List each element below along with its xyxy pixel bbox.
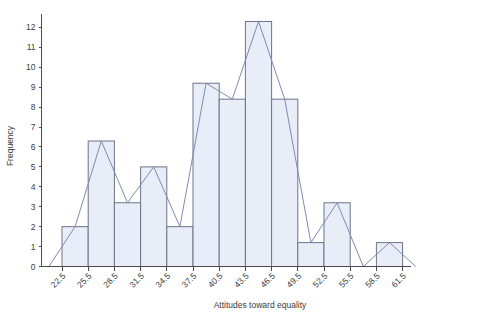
histogram-bar [167, 227, 193, 267]
histogram-bar [141, 167, 167, 267]
histogram-bar [219, 99, 245, 266]
x-tick-label: 43.5 [232, 271, 251, 290]
y-tick-label: 3 [31, 202, 36, 212]
x-tick-label: 25.5 [75, 271, 94, 290]
histogram-bar [298, 243, 324, 267]
y-tick-label: 0 [31, 262, 36, 272]
x-tick-label: 28.5 [101, 271, 120, 290]
x-axis-title: Attitudes toward equality [214, 300, 307, 310]
histogram-bar [114, 203, 140, 267]
y-tick-label: 1 [31, 242, 36, 252]
y-tick-label: 7 [31, 122, 36, 132]
y-tick-label: 5 [31, 162, 36, 172]
x-tick-label: 55.5 [337, 271, 356, 290]
histogram-bar [62, 227, 88, 267]
histogram-bar [88, 141, 114, 267]
y-tick-label: 11 [27, 42, 36, 52]
histogram-bar [324, 203, 350, 267]
y-tick-label: 8 [31, 102, 36, 112]
histogram-bar [245, 21, 271, 266]
histogram-bar [272, 99, 298, 266]
x-tick-label: 61.5 [389, 271, 408, 290]
x-tick-label: 37.5 [180, 271, 199, 290]
y-tick-label: 6 [31, 142, 36, 152]
chart-canvas: 012345678910111222.525.528.531.534.537.5… [0, 0, 489, 317]
histogram-chart: 012345678910111222.525.528.531.534.537.5… [0, 0, 489, 317]
x-tick-label: 31.5 [127, 271, 146, 290]
x-tick-label: 52.5 [311, 271, 330, 290]
y-axis-title: Frequency [5, 125, 15, 166]
x-tick-label: 49.5 [284, 271, 303, 290]
y-tick-label: 12 [26, 22, 36, 32]
y-tick-label: 10 [26, 62, 36, 72]
histogram-bar [376, 243, 402, 267]
histogram-bar [193, 83, 219, 266]
x-tick-label: 22.5 [49, 271, 68, 290]
y-tick-label: 9 [31, 82, 36, 92]
bars-group [62, 21, 403, 266]
y-tick-label: 2 [31, 222, 36, 232]
x-tick-label: 58.5 [363, 271, 382, 290]
x-tick-label: 46.5 [258, 271, 277, 290]
x-tick-label: 34.5 [153, 271, 172, 290]
y-tick-label: 4 [31, 182, 36, 192]
x-tick-label: 40.5 [206, 271, 225, 290]
chart-screenshot: 012345678910111222.525.528.531.534.537.5… [0, 0, 489, 317]
